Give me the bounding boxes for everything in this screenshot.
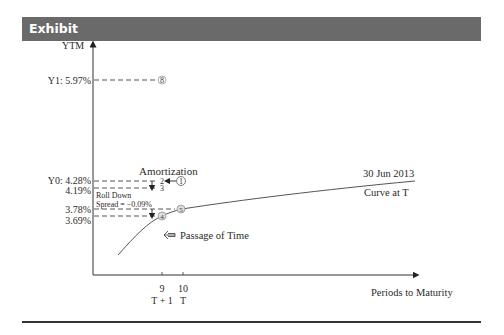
tick-10-label: 10	[178, 283, 188, 294]
y419-label: 4.19%	[65, 185, 91, 196]
tick-9-sublabel: T + 1	[151, 295, 173, 306]
marker-8: 8	[158, 76, 166, 85]
svg-text:5: 5	[179, 206, 183, 214]
y-axis-label: YTM	[62, 40, 84, 51]
passage-of-time-arrow-icon	[164, 231, 175, 239]
y369-label: 3.69%	[65, 215, 91, 226]
svg-text:1: 1	[179, 177, 183, 186]
rolldown-label-line1: Roll Down	[96, 191, 131, 200]
amortization-label: Amortization	[139, 165, 198, 177]
x-axis-label: Periods to Maturity	[371, 287, 453, 298]
marker-5: 5	[177, 205, 185, 214]
marker-4: 4	[158, 212, 166, 221]
roll-down-diagram: YTM Periods to Maturity Y1: 5.97% Y0: 4.…	[0, 0, 504, 335]
marker-1: 1	[177, 177, 186, 187]
passage-of-time-label: Passage of Time	[180, 230, 249, 241]
marker-3: 3	[160, 184, 164, 193]
y378-label: 3.78%	[65, 204, 91, 215]
curve-label: Curve at T	[364, 187, 409, 198]
footer-rule	[22, 321, 481, 323]
tick-10-sublabel: T	[180, 295, 186, 306]
rolldown-label-line2: Spread = −0.09%	[96, 200, 152, 209]
svg-text:4: 4	[160, 213, 164, 221]
y1-label: Y1: 5.97%	[48, 75, 91, 86]
date-label: 30 Jun 2013	[363, 168, 414, 179]
tick-9-label: 9	[160, 283, 165, 294]
svg-text:3: 3	[160, 184, 164, 193]
